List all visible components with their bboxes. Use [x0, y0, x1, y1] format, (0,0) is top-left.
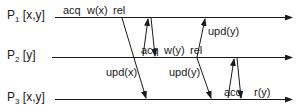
event-p1-acq: acq: [63, 4, 81, 16]
event-p2-rel: rel: [190, 44, 202, 56]
message-upd-y-to-p3-arrow: [197, 58, 211, 98]
lrc-diagram: P1 [x,y] P2 [y] P3 [x,y]: [0, 0, 304, 109]
event-p1-write-x: w(x): [87, 4, 108, 16]
event-p3-read-y: r(y): [254, 86, 271, 98]
message-label-upd-y-p3: upd(y): [169, 66, 200, 78]
message-label-upd-y-p1: upd(y): [208, 25, 239, 37]
event-p1-rel: rel: [113, 4, 125, 16]
event-p2-write-y: w(y): [164, 44, 185, 56]
event-p3-acq: acq: [224, 86, 242, 98]
event-p2-acq: acq: [141, 44, 159, 56]
message-label-upd-x: upd(x): [106, 66, 137, 78]
